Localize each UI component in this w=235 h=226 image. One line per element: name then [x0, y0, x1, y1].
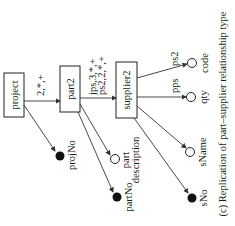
attr-qty-label: qty — [198, 90, 209, 104]
attr-part-description-label-2: description — [130, 136, 141, 183]
edge-project-projno — [24, 105, 55, 151]
edge-label-project-part: 2,*,+ — [35, 74, 46, 96]
attr-projno-label: projNo — [66, 140, 77, 170]
attr-projno-dot — [56, 152, 65, 161]
attr-code-circle — [188, 59, 197, 68]
edge-label-qty: pps — [169, 78, 180, 93]
project-label: project — [9, 80, 20, 109]
edge-part-description — [80, 104, 110, 155]
attr-sname-label: sName — [197, 137, 208, 166]
edge-label-code: ps2 — [169, 51, 180, 66]
edge-supplier-sname — [137, 106, 186, 148]
attr-qty-circle — [187, 93, 196, 102]
attr-partno-dot — [113, 193, 122, 202]
edge-supplier-sno — [134, 118, 188, 193]
attr-sno-dot — [188, 194, 197, 203]
attr-sno-label: sNo — [198, 190, 209, 207]
supplier2-label: supplier2 — [121, 70, 132, 109]
er-diagram: project part2 supplier2 2,*,+ jps,3,*,+ … — [0, 0, 235, 226]
attr-code-label: code — [199, 53, 210, 73]
part2-label: part2 — [65, 78, 76, 100]
figure-caption: (c) Replication of part–supplier relatio… — [217, 11, 229, 216]
attr-sname-circle — [186, 148, 195, 157]
attr-part-description-circle — [111, 155, 120, 164]
edge-label-ps2: ps2,2,*,+ — [96, 56, 107, 95]
attr-partno-label: partNo — [123, 182, 134, 211]
